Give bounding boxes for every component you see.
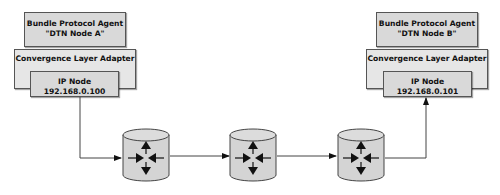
network-links	[0, 0, 500, 195]
router-2	[230, 129, 276, 181]
router-icon	[123, 129, 169, 181]
router-icon	[338, 129, 384, 181]
router-icon	[230, 129, 276, 181]
router-1	[123, 129, 169, 181]
router-3	[338, 129, 384, 181]
